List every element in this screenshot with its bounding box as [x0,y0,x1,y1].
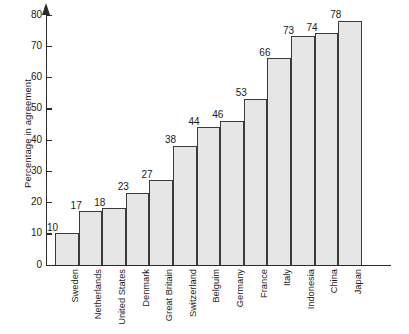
category-slot: China [315,269,339,333]
bar-slot: 44 [197,15,221,265]
y-axis-tick-mark [47,77,52,78]
x-axis-category-labels: SwedenNetherlandsUnited StatesDenmarkGre… [55,269,362,333]
y-axis-tick-mark [47,202,52,203]
bar: 78 [338,21,362,265]
bar: 66 [267,58,291,264]
bar-slot: 17 [79,15,103,265]
bar-slot: 18 [102,15,126,265]
category-label: Japan [354,269,363,294]
category-slot: Belguim [197,269,221,333]
plot-area: 01020304050607080 1017182327384446536673… [46,14,391,266]
category-slot: Indonesia [291,269,315,333]
y-axis-tick-label: 10 [31,228,42,238]
bar-value-label: 38 [165,135,176,145]
x-axis-line [46,265,391,266]
bar: 38 [173,146,197,265]
bar-value-label: 46 [212,110,223,120]
bar-value-label: 44 [189,117,200,127]
y-axis-tick-mark [47,233,52,234]
bar: 44 [197,127,221,265]
y-axis-tick-label: 40 [31,135,42,145]
bar-value-label: 23 [118,182,129,192]
bar-slot: 74 [315,15,339,265]
bar-slot: 23 [126,15,150,265]
y-axis-arrow-icon [42,3,50,15]
bar: 46 [220,121,244,265]
bars-container: 10171823273844465366737478 [55,15,362,265]
category-slot: Sweden [55,269,79,333]
y-axis-tick-label: 0 [36,260,42,270]
bar-chart: Percentage in agreement 0102030405060708… [0,0,409,334]
bar-value-label: 53 [236,88,247,98]
y-axis-tick-mark [47,46,52,47]
bar: 27 [149,180,173,264]
bar: 18 [102,208,126,264]
bar: 53 [244,99,268,265]
y-axis-tick-label: 30 [31,166,42,176]
category-slot: United States [102,269,126,333]
bar-slot: 10 [55,15,79,265]
bar: 10 [55,233,79,264]
y-axis-tick-label: 70 [31,41,42,51]
bar-slot: 73 [291,15,315,265]
category-slot: Denmark [126,269,150,333]
bar: 23 [126,193,150,265]
y-axis-tick-mark [47,15,52,16]
bar-value-label: 18 [94,198,105,208]
category-slot: Netherlands [79,269,103,333]
category-slot: France [244,269,268,333]
bar-value-label: 10 [47,223,58,233]
bar-value-label: 17 [71,201,82,211]
bar-value-label: 27 [141,170,152,180]
y-axis-tick-label: 60 [31,72,42,82]
bar-value-label: 66 [259,48,270,58]
category-slot: Germany [220,269,244,333]
bar-slot: 46 [220,15,244,265]
y-axis-tick-label: 20 [31,197,42,207]
bar-slot: 78 [338,15,362,265]
bar-value-label: 74 [307,23,318,33]
bar-slot: 38 [173,15,197,265]
bar: 17 [79,211,103,264]
y-axis-tick-label: 50 [31,103,42,113]
bar-value-label: 78 [330,10,341,20]
bar: 73 [291,36,315,264]
bar: 74 [315,33,339,264]
y-axis-tick-mark [47,265,52,266]
bar-slot: 66 [267,15,291,265]
bar-value-label: 73 [283,26,294,36]
category-slot: Great Britain [149,269,173,333]
category-slot: Switzerland [173,269,197,333]
y-axis-tick-mark [47,140,52,141]
y-axis-tick-mark [47,108,52,109]
category-slot: Japan [338,269,362,333]
y-axis-tick-mark [47,171,52,172]
category-slot: Italy [267,269,291,333]
y-axis-tick-label: 80 [31,10,42,20]
